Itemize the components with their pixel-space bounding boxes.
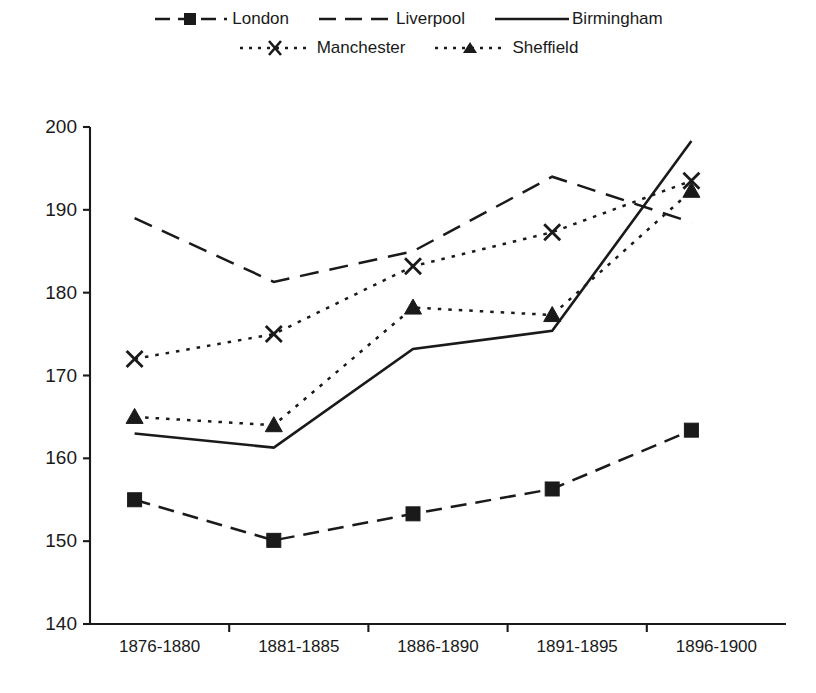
x-tick-label: 1876-1880: [119, 637, 200, 656]
y-tick-label: 140: [45, 613, 77, 634]
data-point-marker-manchester: [127, 351, 143, 367]
line-chart: London Liverpool Birmingham: [0, 0, 816, 693]
y-tick-label: 180: [45, 282, 77, 303]
data-point-marker-manchester: [266, 326, 282, 342]
data-point-marker-sheffield: [126, 408, 143, 423]
data-point-marker-london: [545, 482, 559, 496]
data-point-marker-london: [128, 493, 142, 507]
y-tick-label: 150: [45, 530, 77, 551]
y-tick-label: 190: [45, 199, 77, 220]
data-point-marker-london: [406, 507, 420, 521]
data-point-marker-london: [267, 533, 281, 547]
series-line-birmingham: [135, 141, 692, 448]
data-point-marker-manchester: [544, 224, 560, 240]
series-line-manchester: [135, 181, 692, 359]
x-tick-label: 1891-1895: [537, 637, 618, 656]
x-tick-label: 1886-1890: [397, 637, 478, 656]
x-axis: 1876-18801881-18851886-18901891-18951896…: [90, 624, 786, 656]
data-point-marker-sheffield: [405, 299, 422, 314]
y-tick-label: 160: [45, 447, 77, 468]
series-line-london: [135, 430, 692, 540]
y-tick-label: 200: [45, 116, 77, 137]
plot-area: 140150160170180190200 1876-18801881-1885…: [0, 0, 816, 693]
data-series-group: [126, 141, 700, 547]
y-axis: 140150160170180190200: [45, 116, 90, 634]
y-tick-label: 170: [45, 365, 77, 386]
plot-svg: 140150160170180190200 1876-18801881-1885…: [0, 0, 816, 693]
x-tick-label: 1881-1885: [258, 637, 339, 656]
x-tick-label: 1896-1900: [676, 637, 757, 656]
data-point-marker-london: [684, 423, 698, 437]
data-point-marker-manchester: [405, 258, 421, 274]
data-point-marker-sheffield: [683, 182, 700, 197]
data-point-marker-sheffield: [544, 307, 561, 322]
